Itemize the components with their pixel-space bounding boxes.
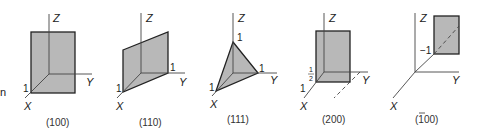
panel-200: Z Y X 1 1 2 (200) [299,12,370,125]
x-axis [393,72,415,98]
x-axis-label: X [209,98,218,110]
half-fraction-numerator: 1 [309,66,313,73]
x-intercept-label: 1 [300,83,306,94]
y-axis-label: Y [179,76,187,88]
y-intercept-label: 1 [170,62,176,73]
negative-x-axis [415,54,434,72]
y-axis-label: Y [452,74,460,86]
y-intercept-label: 1 [259,63,265,74]
z-axis-label: Z [328,12,337,24]
panel-100: Z Y X 1 (100) [23,12,94,128]
panel-bar100: Z Y X −1 (100) [389,12,460,125]
miller-index-caption: (100) [415,113,438,125]
x-axis-label: X [23,100,32,112]
miller-index-caption: (100) [46,117,69,128]
x-axis [304,72,324,98]
svg-text:(100): (100) [415,114,438,125]
y-axis-label: Y [362,74,370,86]
plane-face [216,42,258,91]
miller-index-caption: (110) [139,117,162,128]
z-intercept-label: 1 [237,32,243,43]
half-fraction-denominator: 2 [309,75,313,82]
miller-index-caption: (200) [322,114,345,125]
neg-x-intercept-label: −1 [420,45,432,56]
plane-face [434,16,459,54]
z-axis-label: Z [237,12,246,24]
x-axis-label: X [299,100,308,112]
y-axis-label: Y [270,74,278,86]
z-axis-label: Z [52,12,61,24]
x-axis-label: X [389,100,398,112]
panel-111: Z Y X 1 1 1 (111) [209,12,278,125]
x-intercept-label: 1 [23,83,29,94]
z-axis-label: Z [145,12,154,24]
z-axis-label: Z [419,12,428,24]
x-intercept-label: 1 [116,83,122,94]
miller-planes-diagram: n Z Y X 1 (100) Z Y X 1 1 (110) Z Y X 1 … [0,0,482,136]
y-axis-label: Y [86,76,94,88]
plane-face [31,32,75,93]
plane-face [123,32,168,92]
x-axis-label: X [115,100,124,112]
x-intercept-label: 1 [209,82,215,93]
miller-index-caption: (111) [227,114,249,125]
stray-glyph: n [0,86,6,98]
caption-rest: 00) [424,114,438,125]
plane-face [316,31,350,82]
panel-110: Z Y X 1 1 (110) [115,12,187,128]
